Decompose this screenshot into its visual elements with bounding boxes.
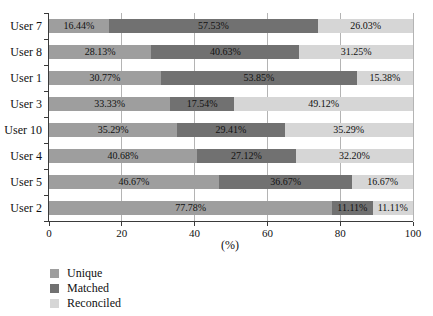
value-label: 35.29%	[333, 123, 364, 137]
y-axis-label: User 1	[0, 65, 42, 91]
value-label: 27.12%	[231, 149, 262, 163]
bar-row: 35.29%29.41%35.29%	[49, 117, 413, 143]
bar-segment-unique: 46.67%	[49, 175, 219, 189]
stacked-bar: 28.13%40.63%31.25%	[49, 45, 413, 59]
bar-segment-unique: 16.44%	[49, 19, 109, 33]
value-label: 53.85%	[244, 71, 275, 85]
bar-segment-reconciled: 31.25%	[299, 45, 413, 59]
y-axis-label: User 5	[0, 169, 42, 195]
value-label: 16.67%	[367, 175, 398, 189]
bar-segment-unique: 30.77%	[49, 71, 161, 85]
stacked-bar: 16.44%57.53%26.03%	[49, 19, 413, 33]
bar-segment-unique: 77.78%	[49, 201, 332, 215]
legend-item: Reconciled	[50, 296, 121, 311]
bar-segment-reconciled: 15.38%	[357, 71, 413, 85]
legend-label: Reconciled	[67, 296, 121, 311]
legend-swatch-reconciled	[50, 299, 59, 308]
x-axis-tick	[49, 222, 50, 226]
bar-segment-reconciled: 35.29%	[285, 123, 413, 137]
legend-swatch-unique	[50, 269, 59, 278]
stacked-bar: 46.67%36.67%16.67%	[49, 175, 413, 189]
value-label: 26.03%	[350, 19, 381, 33]
bar-segment-unique: 28.13%	[49, 45, 151, 59]
stacked-bar: 35.29%29.41%35.29%	[49, 123, 413, 137]
stacked-bar: 40.68%27.12%32.20%	[49, 149, 413, 163]
value-label: 15.38%	[370, 71, 401, 85]
legend-swatch-matched	[50, 284, 59, 293]
bar-segment-matched: 17.54%	[170, 97, 234, 111]
y-axis-label: User 3	[0, 91, 42, 117]
bar-segment-reconciled: 49.12%	[234, 97, 413, 111]
y-axis-labels: User 7User 8User 1User 3User 10User 4Use…	[0, 13, 42, 221]
bar-segment-matched: 57.53%	[109, 19, 318, 33]
y-axis-tick	[44, 169, 48, 170]
x-axis-tick	[194, 222, 195, 226]
y-axis-tick	[44, 91, 48, 92]
bar-segment-matched: 27.12%	[197, 149, 296, 163]
bar-row: 30.77%53.85%15.38%	[49, 65, 413, 91]
bar-segment-unique: 35.29%	[49, 123, 177, 137]
bar-segment-unique: 33.33%	[49, 97, 170, 111]
bar-row: 46.67%36.67%16.67%	[49, 169, 413, 195]
value-label: 40.68%	[108, 149, 139, 163]
value-label: 49.12%	[308, 97, 339, 111]
legend-item: Matched	[50, 281, 121, 296]
y-axis-tick	[44, 39, 48, 40]
value-label: 30.77%	[90, 71, 121, 85]
bar-segment-matched: 53.85%	[161, 71, 357, 85]
value-label: 46.67%	[119, 175, 150, 189]
value-label: 57.53%	[198, 19, 229, 33]
value-label: 17.54%	[187, 97, 218, 111]
bar-segment-unique: 40.68%	[49, 149, 197, 163]
value-label: 36.67%	[270, 175, 301, 189]
value-label: 11.11%	[378, 201, 408, 215]
legend-label: Unique	[67, 266, 102, 281]
bar-segment-reconciled: 32.20%	[296, 149, 413, 163]
value-label: 29.41%	[216, 123, 247, 137]
bar-segment-matched: 40.63%	[151, 45, 299, 59]
stacked-bar: 30.77%53.85%15.38%	[49, 71, 413, 85]
x-axis-tick	[267, 222, 268, 226]
value-label: 33.33%	[94, 97, 125, 111]
y-axis-tick	[44, 13, 48, 14]
stacked-bar: 77.78%11.11%11.11%	[49, 201, 413, 215]
x-axis-title: (%)	[48, 238, 412, 253]
bar-row: 28.13%40.63%31.25%	[49, 39, 413, 65]
y-axis-tick	[44, 117, 48, 118]
plot-area: 16.44%57.53%26.03%28.13%40.63%31.25%30.7…	[48, 13, 413, 222]
y-axis-label: User 4	[0, 143, 42, 169]
value-label: 11.11%	[337, 201, 367, 215]
value-label: 31.25%	[341, 45, 372, 59]
bar-segment-matched: 36.67%	[219, 175, 352, 189]
value-label: 77.78%	[175, 201, 206, 215]
legend: UniqueMatchedReconciled	[50, 266, 121, 311]
stacked-bar-chart-figure: User 7User 8User 1User 3User 10User 4Use…	[0, 0, 433, 316]
bar-row: 16.44%57.53%26.03%	[49, 13, 413, 39]
x-axis-tick	[413, 222, 414, 226]
bar-row: 40.68%27.12%32.20%	[49, 143, 413, 169]
bar-row: 77.78%11.11%11.11%	[49, 195, 413, 221]
x-axis-tick	[340, 222, 341, 226]
y-axis-tick	[44, 195, 48, 196]
value-label: 40.63%	[210, 45, 241, 59]
value-label: 16.44%	[63, 19, 94, 33]
stacked-bar: 33.33%17.54%49.12%	[49, 97, 413, 111]
legend-item: Unique	[50, 266, 121, 281]
value-label: 28.13%	[85, 45, 116, 59]
y-axis-label: User 8	[0, 39, 42, 65]
bar-segment-matched: 11.11%	[332, 201, 372, 215]
y-axis-tick	[44, 65, 48, 66]
y-axis-label: User 7	[0, 13, 42, 39]
bar-row: 33.33%17.54%49.12%	[49, 91, 413, 117]
y-axis-tick	[44, 143, 48, 144]
bar-segment-reconciled: 16.67%	[352, 175, 413, 189]
bar-segment-matched: 29.41%	[177, 123, 284, 137]
y-axis-tick	[44, 221, 48, 222]
value-label: 32.20%	[339, 149, 370, 163]
legend-label: Matched	[67, 281, 109, 296]
bar-segment-reconciled: 11.11%	[373, 201, 413, 215]
value-label: 35.29%	[98, 123, 129, 137]
y-axis-label: User 2	[0, 195, 42, 221]
x-axis-tick	[121, 222, 122, 226]
y-axis-label: User 10	[0, 117, 42, 143]
